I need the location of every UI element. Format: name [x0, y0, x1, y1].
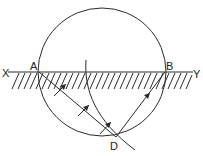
label-b: B	[166, 60, 173, 72]
reflection-diagram: X A B Y D	[0, 0, 203, 156]
arrow-3	[100, 122, 111, 134]
surface-hatching	[12, 73, 192, 89]
label-y: Y	[193, 68, 201, 80]
label-a: A	[30, 60, 38, 72]
label-x: X	[2, 67, 10, 79]
ray-a-to-d	[39, 72, 116, 137]
label-d: D	[110, 140, 118, 152]
wavefront-curve	[86, 60, 135, 150]
